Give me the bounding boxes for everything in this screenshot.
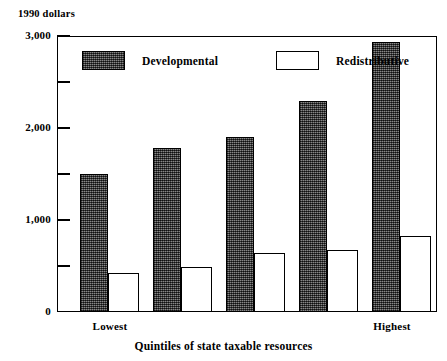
legend-entry-developmental: Developmental	[82, 51, 218, 70]
legend-label-developmental: Developmental	[142, 55, 218, 67]
bar-redistributive-3	[254, 253, 285, 312]
legend-entry-redistributive: Redistributive	[276, 51, 409, 70]
y-tick-label-1000: 1,000	[3, 213, 51, 225]
x-tick-label-highest: Highest	[352, 320, 432, 332]
bar-redistributive-5	[400, 236, 431, 312]
y-axis-unit-label: 1990 dollars	[18, 8, 75, 19]
bars-layer	[57, 36, 437, 312]
legend-swatch-redistributive-icon	[276, 51, 319, 70]
bar-developmental-2	[153, 148, 181, 312]
legend-label-redistributive: Redistributive	[336, 55, 409, 67]
bar-redistributive-1	[108, 273, 139, 312]
bar-developmental-1	[80, 174, 108, 312]
y-tick-label-0: 0	[3, 305, 51, 317]
bar-developmental-3	[226, 137, 254, 312]
bar-developmental-4	[299, 101, 327, 312]
y-tick-label-3000: 3,000	[3, 29, 51, 41]
chart-legend: Developmental Redistributive	[82, 51, 409, 70]
y-tick-label-2000: 2,000	[3, 121, 51, 133]
x-tick-label-lowest: Lowest	[70, 320, 150, 332]
legend-swatch-developmental-icon	[82, 51, 125, 70]
x-axis-title: Quintiles of state taxable resources	[0, 340, 447, 352]
bar-redistributive-4	[327, 250, 358, 312]
bar-chart: 1990 dollars 3,000 2,000 1,000 0 Develop…	[0, 0, 447, 361]
bar-redistributive-2	[181, 267, 212, 312]
bar-developmental-5	[372, 42, 400, 312]
